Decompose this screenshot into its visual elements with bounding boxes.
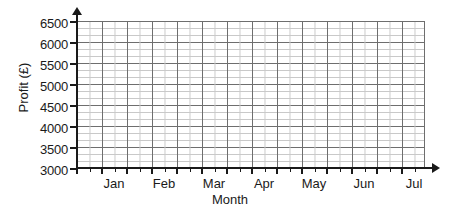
x-axis-tick-label: Jul xyxy=(389,176,439,191)
x-axis-tick-major xyxy=(126,167,128,174)
x-axis-tick-major xyxy=(101,167,103,174)
x-axis-tick-major xyxy=(276,167,278,174)
x-axis-tick-minor xyxy=(140,167,141,172)
x-axis-tick-minor xyxy=(340,167,341,172)
x-axis-line xyxy=(76,167,434,169)
y-axis-tick xyxy=(70,21,77,23)
x-axis-tick-minor xyxy=(290,167,291,172)
x-axis-tick-minor xyxy=(415,167,416,172)
x-axis-tick-label: May xyxy=(289,176,339,191)
x-axis-tick-minor xyxy=(90,167,91,172)
chart-figure: 65006000550050004500400035003000 JanFebM… xyxy=(0,0,453,210)
y-axis-tick xyxy=(70,84,77,86)
plot-grid-area xyxy=(77,21,425,168)
y-axis-tick-label: 5000 xyxy=(24,79,68,94)
x-axis-tick-label: Apr xyxy=(239,176,289,191)
x-axis-tick-label: Jan xyxy=(89,176,139,191)
x-axis-tick-minor xyxy=(115,167,116,172)
x-axis-tick-minor xyxy=(215,167,216,172)
x-axis-tick-minor xyxy=(315,167,316,172)
plot-right-border xyxy=(424,21,425,168)
y-axis-title: Profit (£) xyxy=(16,38,31,138)
x-axis-tick-major xyxy=(151,167,153,174)
x-axis-tick-major xyxy=(326,167,328,174)
x-axis-tick-label: Jun xyxy=(339,176,389,191)
y-axis-tick xyxy=(70,42,77,44)
x-axis-tick-label: Feb xyxy=(139,176,189,191)
x-axis-title: Month xyxy=(180,192,280,207)
y-axis-tick-label: 4500 xyxy=(24,100,68,115)
x-axis-tick-major xyxy=(376,167,378,174)
y-axis-line xyxy=(76,13,78,169)
x-axis-tick-minor xyxy=(390,167,391,172)
y-axis-tick-label: 3000 xyxy=(24,163,68,178)
y-axis-tick xyxy=(70,147,77,149)
x-axis-tick-minor xyxy=(165,167,166,172)
y-axis-tick-label: 3500 xyxy=(24,142,68,157)
y-axis-arrow-icon xyxy=(72,7,82,15)
y-axis-tick-label: 6500 xyxy=(24,16,68,31)
x-axis-tick-major xyxy=(176,167,178,174)
x-axis-tick-major xyxy=(251,167,253,174)
x-axis-tick-label: Mar xyxy=(189,176,239,191)
x-axis-tick-minor xyxy=(240,167,241,172)
x-axis-arrow-icon xyxy=(432,163,440,173)
x-axis-tick-major xyxy=(76,167,78,174)
y-axis-tick xyxy=(70,126,77,128)
x-axis-tick-major xyxy=(401,167,403,174)
x-axis-tick-major xyxy=(351,167,353,174)
y-axis-tick-label: 6000 xyxy=(24,37,68,52)
x-axis-tick-minor xyxy=(365,167,366,172)
x-axis-tick-major xyxy=(301,167,303,174)
plot-top-border xyxy=(77,21,425,22)
x-axis-tick-minor xyxy=(190,167,191,172)
y-axis-tick-label: 5500 xyxy=(24,58,68,73)
x-axis-tick-major xyxy=(201,167,203,174)
x-axis-tick-minor xyxy=(265,167,266,172)
x-axis-tick-major xyxy=(226,167,228,174)
y-axis-tick xyxy=(70,63,77,65)
y-axis-tick xyxy=(70,105,77,107)
y-axis-tick-label: 4000 xyxy=(24,121,68,136)
